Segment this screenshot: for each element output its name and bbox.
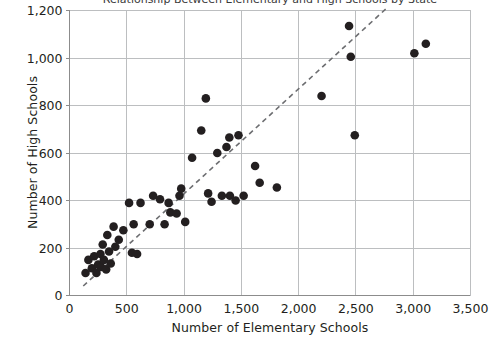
data-point [273, 183, 282, 192]
data-point [109, 222, 118, 231]
data-point [129, 220, 138, 229]
data-point [239, 191, 248, 200]
trend-line [83, 7, 388, 286]
data-point [114, 235, 123, 244]
data-point [136, 199, 145, 208]
data-point [98, 240, 107, 249]
svg-text:2,000: 2,000 [281, 301, 317, 316]
x-tick-labels: 05001,0001,5002,0002,5003,0003,500 [66, 301, 489, 316]
data-point [346, 53, 355, 62]
data-point [181, 218, 190, 227]
svg-text:2,500: 2,500 [338, 301, 374, 316]
svg-text:0: 0 [66, 301, 74, 316]
y-tick-labels: 02004006008001,0001,200 [27, 3, 70, 303]
data-point [234, 131, 243, 140]
data-point [160, 220, 169, 229]
svg-text:1,000: 1,000 [166, 301, 202, 316]
svg-text:200: 200 [39, 241, 63, 256]
svg-text:1,500: 1,500 [223, 301, 259, 316]
svg-text:3,000: 3,000 [395, 301, 431, 316]
svg-text:500: 500 [115, 301, 139, 316]
data-points [81, 22, 430, 278]
svg-text:400: 400 [39, 193, 63, 208]
plot-svg: 02004006008001,0001,200 05001,0001,5002,… [0, 0, 491, 343]
data-point [106, 259, 115, 268]
data-point [225, 133, 234, 142]
data-point [345, 22, 354, 31]
data-point [317, 92, 326, 101]
data-point [350, 131, 359, 140]
data-point [218, 191, 227, 200]
data-point [213, 149, 222, 158]
data-point [202, 94, 211, 103]
data-point [197, 126, 206, 135]
data-point [119, 226, 128, 235]
svg-text:800: 800 [39, 98, 63, 113]
data-point [251, 162, 260, 171]
y-gridlines [70, 11, 471, 249]
data-point [188, 153, 197, 162]
svg-text:1,000: 1,000 [27, 51, 63, 66]
data-point [255, 178, 264, 187]
data-point [172, 209, 181, 218]
data-point [103, 231, 112, 240]
data-point [204, 189, 213, 198]
svg-text:600: 600 [39, 146, 63, 161]
data-point [222, 143, 231, 152]
svg-text:1,200: 1,200 [27, 3, 63, 18]
data-point [175, 191, 184, 200]
data-point [156, 195, 165, 204]
data-point [125, 199, 134, 208]
data-point [164, 199, 173, 208]
scatter-chart: Relationship Between Elementary and High… [0, 0, 491, 343]
data-point [231, 196, 240, 205]
data-point [133, 250, 142, 259]
data-point [145, 220, 154, 229]
data-point [207, 197, 216, 206]
data-point [422, 39, 431, 48]
svg-text:3,500: 3,500 [453, 301, 489, 316]
data-point [177, 184, 186, 193]
data-point [410, 49, 419, 58]
svg-text:0: 0 [55, 288, 63, 303]
